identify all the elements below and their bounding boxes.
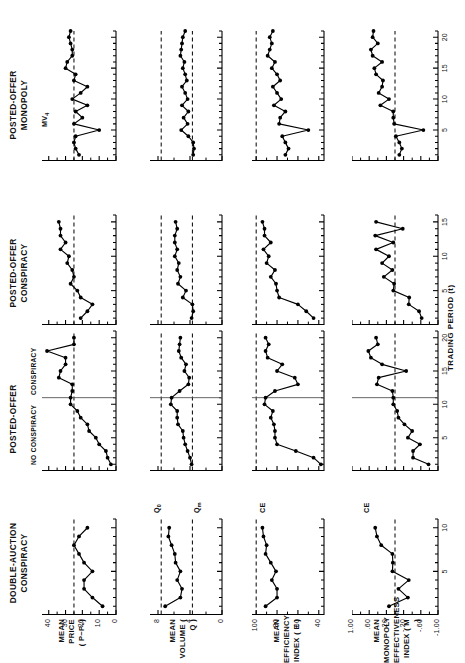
chart-panel-r2c2 <box>150 329 236 471</box>
y-tick-label: 40 <box>44 619 51 649</box>
row-label-mean-monopoly-effectiveness-index: MEAN MONOPOLY EFFECTIVENESS INDEX ( M ) <box>372 619 422 663</box>
x-tick-label: 10 <box>441 518 448 538</box>
y-tick-label: -.60 <box>416 619 423 649</box>
y-tick-label: 1.00 <box>347 619 354 649</box>
y-tick-label: 4 <box>185 619 192 649</box>
chart-panel-r3c4 <box>252 29 338 161</box>
y-tick-label: -.20 <box>399 619 406 649</box>
y-tick-label: .20 <box>381 619 388 649</box>
chart-panel-r4c3 <box>352 213 452 325</box>
chart-panel-r3c3 <box>252 213 338 325</box>
x-tick-label: 5 <box>441 120 448 140</box>
y-tick-label: 0 <box>111 619 118 649</box>
row-label-mean-volume: MEAN VOLUME ( Q ) <box>168 619 198 663</box>
phase-label-conspiracy: CONSPIRACY <box>30 348 37 395</box>
reference-label-qm: Qm <box>192 502 202 513</box>
x-tick-label: 20 <box>441 328 448 348</box>
chart-panel-r4c2 <box>352 329 452 471</box>
y-tick-label: 8 <box>153 619 160 649</box>
y-tick-label: 10 <box>94 619 101 649</box>
x-tick-label: 15 <box>441 58 448 78</box>
y-tick-label: 30 <box>61 619 68 649</box>
y-tick-label: -1.00 <box>433 619 440 649</box>
y-tick-label: 100 <box>251 619 258 649</box>
y-tick-label: 40 <box>314 619 321 649</box>
chart-panel-r2c4 <box>150 29 236 161</box>
y-tick-label: .60 <box>364 619 371 649</box>
phase-label-no-conspiracy: NO CONSPIRACY <box>30 405 37 465</box>
chart-panel-r3c1 <box>252 517 338 615</box>
column-title-posted-offer-monopoly: POSTED-OFFER MONOPOLY <box>8 53 29 157</box>
chart-panel-r1c2 <box>42 329 130 471</box>
y-tick-label: 60 <box>293 619 300 649</box>
column-title-double-auction-conspiracy: DOUBLE-AUCTION CONSPIRACY <box>8 515 29 611</box>
figure-canvas: DOUBLE-AUCTION CONSPIRACY POSTED-OFFER P… <box>0 0 465 663</box>
chart-panel-r1c3 <box>42 213 130 325</box>
x-tick-label: 15 <box>441 361 448 381</box>
x-tick-label: 15 <box>441 212 448 232</box>
reference-label-q0: Q0 <box>152 504 162 513</box>
chart-panel-r2c1 <box>150 517 236 615</box>
chart-panel-r4c4 <box>352 29 452 161</box>
x-tick-label: 10 <box>441 89 448 109</box>
chart-panel-r3c2 <box>252 329 338 471</box>
reference-label-ce-row4: CE <box>362 503 371 513</box>
column-title-posted-offer: POSTED-OFFER <box>8 371 19 467</box>
chart-panel-r4c1 <box>352 517 452 615</box>
figure-stage: DOUBLE-AUCTION CONSPIRACY POSTED-OFFER P… <box>0 0 465 663</box>
y-tick-label: 0 <box>217 619 224 649</box>
x-tick-label: 10 <box>441 394 448 414</box>
x-tick-label: 10 <box>441 246 448 266</box>
column-title-posted-offer-conspiracy: POSTED-OFFER CONSPIRACY <box>8 225 29 321</box>
y-tick-label: 20 <box>77 619 84 649</box>
chart-panel-r2c3 <box>150 213 236 325</box>
x-tick-label: 20 <box>441 27 448 47</box>
chart-panel-r1c4 <box>42 29 130 161</box>
x-tick-label: 5 <box>441 428 448 448</box>
x-tick-label: 5 <box>441 561 448 581</box>
reference-label-ce-row3: CE <box>258 503 267 513</box>
y-tick-label: 80 <box>272 619 279 649</box>
chart-panel-r1c1 <box>42 517 130 615</box>
x-tick-label: 5 <box>441 281 448 301</box>
